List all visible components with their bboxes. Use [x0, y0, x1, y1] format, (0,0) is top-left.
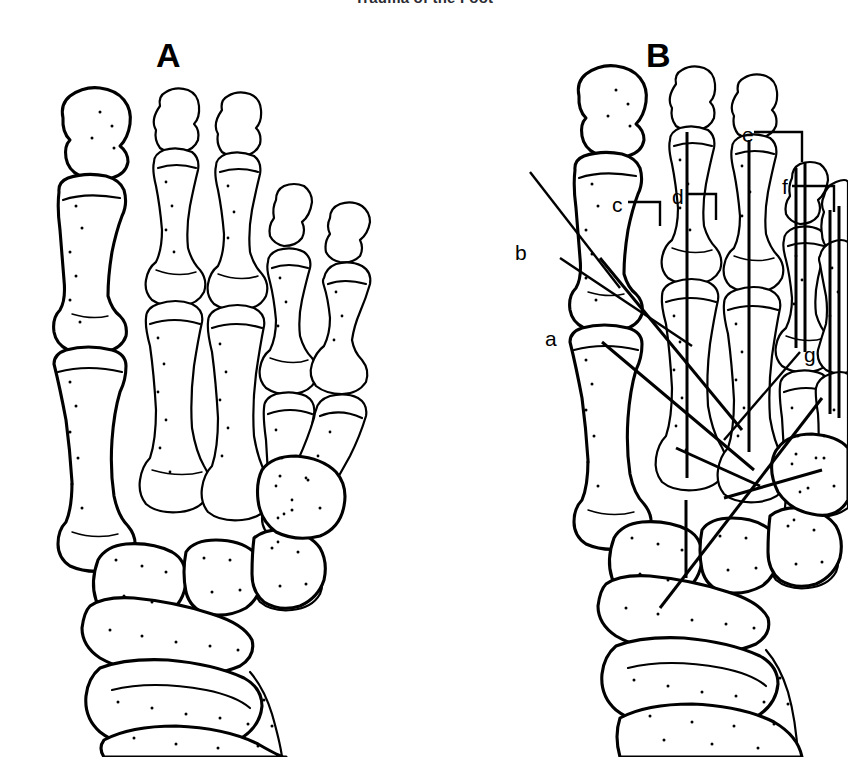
foot-skeleton-b [530, 66, 848, 757]
callout-label-d: d [672, 186, 684, 207]
callout-label-b: b [515, 242, 527, 263]
figure-panel-b [424, 0, 848, 757]
callout-label-f: f [782, 176, 788, 197]
callout-label-e: e [742, 124, 754, 145]
foot-skeleton-a [54, 88, 371, 757]
figure-page: Trauma of the Foot A B [0, 0, 848, 757]
figure-panel-a [0, 0, 424, 757]
callout-label-g: g [804, 344, 816, 365]
callout-label-c: c [612, 194, 623, 215]
callout-label-a: a [545, 328, 557, 349]
